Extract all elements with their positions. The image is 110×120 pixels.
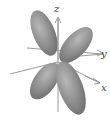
- lobe-upper-right: [53, 21, 99, 68]
- x-axis-label: x: [101, 82, 107, 93]
- orbital-diagram: z y x: [0, 0, 110, 120]
- z-axis-label: z: [53, 3, 60, 14]
- y-axis-label: y: [100, 48, 107, 59]
- orbital-lobes: [24, 7, 99, 119]
- lobe-upper-left: [25, 7, 63, 60]
- x-arrow-icon: [93, 78, 100, 84]
